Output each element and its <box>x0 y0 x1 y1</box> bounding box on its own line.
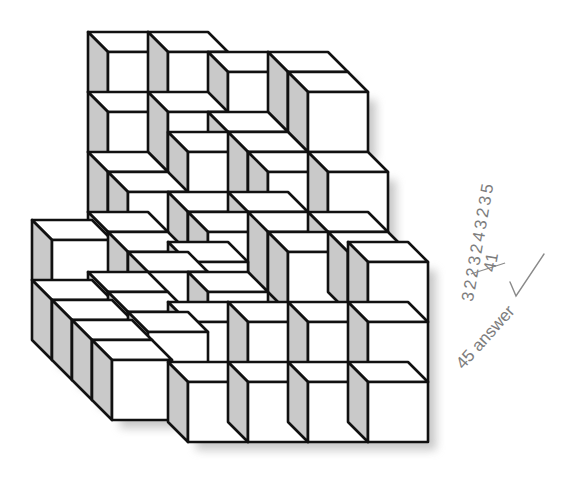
cube <box>288 72 368 152</box>
check-mark-icon <box>508 250 548 300</box>
cube <box>348 362 428 442</box>
cube-front-face <box>308 92 368 152</box>
cube-stack <box>32 32 428 442</box>
tally-total: 41 <box>480 251 503 273</box>
cube <box>92 340 172 420</box>
cube-front-face <box>112 360 172 420</box>
cube-front-face <box>368 382 428 442</box>
